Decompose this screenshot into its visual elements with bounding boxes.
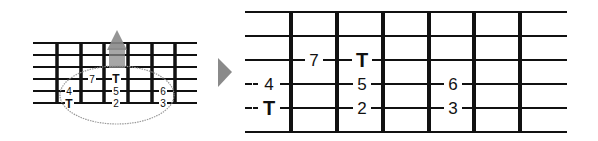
large-label-6: 6 <box>448 75 457 94</box>
large-label-t-upper: T <box>356 49 368 71</box>
large-fretboard: 7 T 4 5 6 T 2 3 <box>245 12 567 132</box>
large-label-t-lower: T <box>263 97 275 119</box>
small-label-t-upper: T <box>112 72 120 86</box>
large-label-5: 5 <box>357 75 366 94</box>
large-frets <box>291 12 520 132</box>
large-label-7: 7 <box>309 51 318 70</box>
large-label-3: 3 <box>448 99 457 118</box>
small-label-7: 7 <box>89 74 95 85</box>
small-label-6: 6 <box>160 86 166 97</box>
small-fretboard: 7 T 4 5 6 T 2 3 <box>33 30 197 124</box>
up-arrow-icon <box>107 30 127 68</box>
small-label-5: 5 <box>113 86 119 97</box>
large-label-2: 2 <box>357 99 366 118</box>
small-label-2: 2 <box>113 98 119 109</box>
right-arrow-icon <box>218 58 232 87</box>
small-label-4: 4 <box>66 86 72 97</box>
small-label-3: 3 <box>160 98 166 109</box>
large-label-4: 4 <box>264 75 273 94</box>
